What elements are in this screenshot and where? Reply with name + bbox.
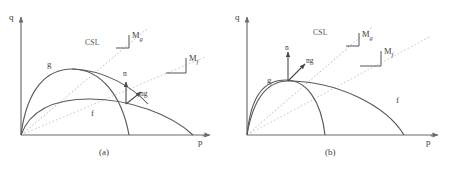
panel-a-drawing [0,0,226,171]
mf-label-a: Mf [189,54,198,65]
panel-b-drawing [226,0,452,171]
curve-g-label-b: g [267,76,272,85]
curve-f-b [247,81,404,135]
vector-ng-label-a: ng [140,90,148,98]
x-axis-label-a: p' [198,138,204,147]
mf-bracket-a [166,58,186,73]
mg-label-base-a: M [132,30,140,40]
mf-line-b [247,36,431,135]
x-axis-label-prime-b: ' [431,134,432,143]
mf-label-base-b: M [384,46,392,56]
panel-b: q p' CSL Mg Mf g f n ng (b) [226,0,452,171]
x-axis-label-b: p' [426,138,432,147]
csl-label-b: CSL [313,29,328,37]
mg-label-sub-a: g [140,35,143,42]
vector-n-label-b: n [285,44,289,52]
mf-label-b: Mf [384,47,393,58]
mg-label-base-b: M [362,29,370,39]
y-axis-label-b: q [235,13,240,22]
curve-f-label-b: f [396,96,399,105]
vector-n-label-a: n [123,70,127,78]
mg-label-a: Mg [132,31,143,42]
figure-container: q p' CSL Mg Mf g f n ng (a) [0,0,452,171]
panel-b-axes [247,17,438,135]
mf-label-base-a: M [189,53,197,63]
caption-a: (a) [99,148,109,157]
mf-bracket-b [360,51,381,66]
y-axis-label-a: q [9,13,14,22]
curve-f-a [21,99,193,135]
csl-line-b [247,27,372,135]
mg-label-sub-b: g [370,34,373,41]
curve-g-label-a: g [47,60,52,69]
mg-label-b: Mg [362,30,373,41]
caption-b: (b) [325,148,336,157]
vector-ng-label-b: ng [306,57,314,65]
curve-f-label-a: f [91,109,94,118]
mf-label-sub-b: f [392,51,394,58]
vector-ng-a [126,92,141,104]
curve-g-b [247,80,325,135]
mf-label-sub-a: f [197,58,199,65]
x-axis-label-prime-a: ' [203,134,204,143]
csl-label-a: CSL [85,39,100,47]
panel-a: q p' CSL Mg Mf g f n ng (a) [0,0,226,171]
vector-ng-b [288,64,305,81]
